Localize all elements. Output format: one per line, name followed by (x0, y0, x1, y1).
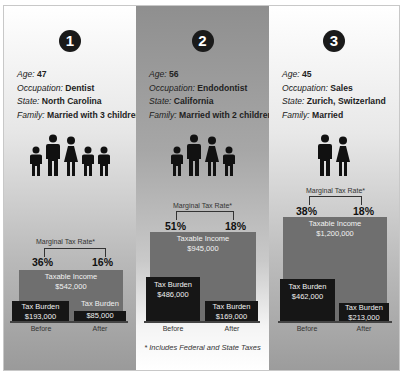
marginal-rate-after: 18% (225, 220, 246, 232)
tax-burden-after-bar: $85,000 (74, 311, 126, 321)
before-label: Before (16, 325, 66, 332)
tax-burden-before-bar: Tax Burden $193,000 (12, 301, 69, 321)
panel-3: 3 Age: 45 Occupation: Sales State: Zuric… (269, 6, 399, 370)
woman-icon (335, 136, 351, 176)
taxable-income-label: Taxable Income (283, 219, 387, 229)
child-icon (222, 146, 236, 176)
woman-icon (204, 136, 220, 176)
taxable-income-value: $542,000 (19, 282, 123, 292)
tax-burden-after-label: Tax Burden (74, 299, 126, 309)
age-label: Age: (17, 69, 35, 79)
man-icon (45, 134, 61, 176)
age-value: 47 (37, 69, 47, 79)
tax-burden-after-bar: Tax Burden $213,000 (339, 303, 389, 321)
occupation-value: Endodontist (197, 83, 247, 93)
family-icons (29, 134, 111, 176)
marginal-tax-rate-label: Marginal Tax Rate* (306, 187, 365, 194)
occupation-label: Occupation: (149, 83, 195, 93)
tax-burden-before-bar: Tax Burden $486,000 (146, 277, 200, 321)
tax-burden-before-label: Tax Burden (146, 280, 200, 290)
before-label: Before (282, 325, 332, 332)
marginal-rate-before: 38% (296, 205, 317, 217)
occupation-value: Sales (330, 83, 352, 93)
family-icons (317, 134, 351, 176)
child-icon (170, 146, 184, 176)
child-icon (29, 146, 43, 176)
profile-info: Age: 56 Occupation: Endodontist State: C… (149, 68, 273, 122)
state-value: North Carolina (42, 96, 102, 106)
age-value: 45 (302, 69, 312, 79)
tax-burden-before-label: Tax Burden (280, 282, 335, 292)
panel-1: 1 Age: 47 Occupation: Dentist State: Nor… (4, 6, 136, 370)
chart-baseline (10, 321, 128, 323)
family-label: Family: (282, 110, 310, 120)
state-label: State: (282, 96, 304, 106)
state-value: California (174, 96, 214, 106)
profile-info: Age: 45 Occupation: Sales State: Zurich,… (282, 68, 386, 122)
marginal-rate-before: 51% (165, 220, 186, 232)
marginal-rate-bracket (309, 196, 362, 205)
after-label: After (75, 325, 125, 332)
family-value: Married with 3 children (47, 110, 141, 120)
family-icons (170, 134, 236, 176)
taxable-income-label: Taxable Income (19, 272, 123, 282)
after-label: After (339, 325, 389, 332)
after-label: After (207, 325, 257, 332)
age-value: 56 (169, 69, 179, 79)
occupation-value: Dentist (65, 83, 94, 93)
tax-burden-after-label: Tax Burden (339, 303, 389, 313)
before-label: Before (148, 325, 198, 332)
state-label: State: (149, 96, 171, 106)
occupation-label: Occupation: (282, 83, 328, 93)
taxable-income-value: $1,200,000 (283, 229, 387, 239)
tax-burden-after-bar: Tax Burden $169,000 (205, 301, 258, 321)
child-icon (97, 146, 111, 176)
infographic-frame: 1 Age: 47 Occupation: Dentist State: Nor… (3, 5, 400, 371)
taxable-income-label: Taxable Income (150, 234, 256, 244)
family-value: Married with 2 children (179, 110, 273, 120)
marginal-tax-rate-label: Marginal Tax Rate* (173, 202, 232, 209)
age-label: Age: (282, 69, 300, 79)
marginal-tax-rate-label: Marginal Tax Rate* (36, 238, 95, 245)
tax-burden-before-value: $462,000 (280, 292, 335, 302)
family-label: Family: (149, 110, 177, 120)
state-label: State: (17, 96, 39, 106)
panel-2: 2 Age: 56 Occupation: Endodontist State:… (136, 6, 269, 370)
tax-burden-after-text: Tax Burden (74, 299, 126, 309)
panel-number-badge: 1 (59, 30, 81, 52)
man-icon (186, 134, 202, 176)
marginal-rate-after: 16% (92, 256, 113, 268)
family-value: Married (312, 110, 343, 120)
marginal-rate-after: 18% (353, 205, 374, 217)
tax-burden-before-label: Tax Burden (12, 302, 69, 312)
taxable-income-value: $945,000 (150, 244, 256, 254)
tax-burden-after-value: $85,000 (74, 311, 126, 321)
footnote: * Includes Federal and State Taxes (136, 343, 269, 352)
age-label: Age: (149, 69, 167, 79)
state-value: Zurich, Switzerland (307, 96, 386, 106)
child-icon (81, 146, 95, 176)
tax-burden-before-bar: Tax Burden $462,000 (280, 279, 335, 321)
marginal-rate-before: 36% (32, 256, 53, 268)
tax-burden-after-label: Tax Burden (205, 302, 258, 312)
panel-number-badge: 2 (192, 30, 214, 52)
profile-info: Age: 47 Occupation: Dentist State: North… (17, 68, 141, 122)
woman-icon (63, 136, 79, 176)
chart-baseline (278, 321, 392, 323)
man-icon (317, 134, 333, 176)
family-label: Family: (17, 110, 45, 120)
marginal-rate-bracket (176, 211, 234, 220)
tax-burden-before-value: $486,000 (146, 290, 200, 300)
chart-baseline (144, 321, 260, 323)
occupation-label: Occupation: (17, 83, 63, 93)
panel-number-badge: 3 (323, 30, 345, 52)
